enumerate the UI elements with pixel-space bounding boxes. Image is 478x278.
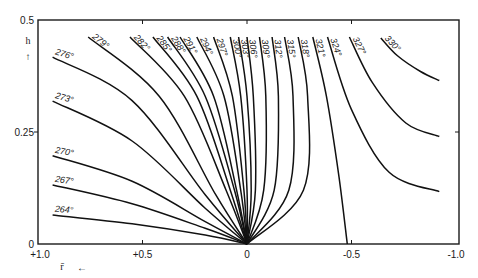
- y-tick-label: 0.5: [20, 15, 34, 26]
- curve-294deg: [197, 37, 247, 244]
- curve-label: 294°: [198, 35, 215, 57]
- x-axis-name: r̄: [60, 261, 64, 272]
- x-axis-arrow: ←: [77, 262, 87, 273]
- curve-label: 321°: [314, 38, 328, 59]
- curve-label: 315°: [285, 39, 298, 59]
- x-tick-label: +1.0: [30, 249, 50, 260]
- chart: +1.0+0.50-0.5-1.000.250.5 264°267°270°27…: [0, 0, 478, 278]
- curve-label: 318°: [299, 38, 312, 58]
- curve-label: 285°: [154, 33, 174, 55]
- curve-group: [53, 37, 440, 244]
- x-tick-label: -0.5: [343, 249, 361, 260]
- curve-label: 309°: [260, 39, 272, 59]
- y-tick-label: 0: [28, 239, 34, 250]
- curve-label: 312°: [272, 39, 284, 59]
- curve-label-group: 264°267°270°273°276°279°282°285°288°291°…: [53, 31, 403, 216]
- curve-279deg: [88, 37, 247, 244]
- curve-273deg: [53, 101, 247, 244]
- curve-267deg: [53, 185, 247, 244]
- x-tick-label: -1.0: [447, 249, 465, 260]
- y-tick-label: 0.25: [15, 127, 35, 138]
- y-axis-name: h: [26, 35, 31, 46]
- curve-306deg: [247, 37, 256, 244]
- curve-label: 279°: [90, 31, 112, 51]
- y-axis-arrow: ↑: [26, 51, 31, 62]
- curve-label: 267°: [53, 174, 74, 187]
- curve-324deg: [328, 37, 440, 192]
- x-tick-label: 0: [244, 249, 250, 260]
- curve-label: 264°: [53, 204, 74, 215]
- curve-312deg: [247, 37, 279, 244]
- curve-label: 306°: [247, 39, 259, 59]
- curve-321deg: [313, 37, 348, 244]
- x-tick-label: +0.5: [133, 249, 153, 260]
